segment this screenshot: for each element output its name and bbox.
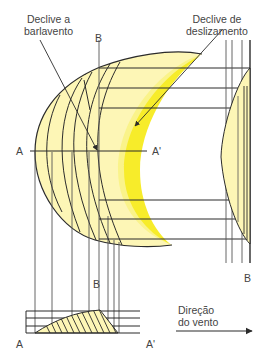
- label-a-right-bottom: A': [146, 338, 155, 350]
- label-a-left-mid: A: [16, 145, 23, 157]
- cross-section-b: [221, 68, 250, 244]
- label-wind-line1: Direção: [178, 304, 218, 316]
- label-a-left-bottom: A: [16, 338, 23, 350]
- label-wind-direction: Direção do vento: [178, 304, 218, 328]
- label-slip-face-line1: Declive de: [186, 13, 248, 25]
- label-slip-face-line2: deslizamento: [186, 25, 248, 37]
- label-b-right-bottom: B: [244, 272, 251, 284]
- label-windward-line1: Declive a: [24, 13, 73, 25]
- label-wind-line2: do vento: [178, 316, 218, 328]
- label-windward-line2: barlavento: [24, 25, 73, 37]
- cross-section-a: [26, 303, 140, 333]
- label-windward-slope: Declive a barlavento: [24, 13, 73, 37]
- label-a-right-mid: A': [152, 145, 161, 157]
- dune-plan-view: [35, 52, 202, 247]
- label-b-top: B: [95, 32, 102, 44]
- label-b-mid: B: [93, 278, 100, 290]
- label-slip-face: Declive de deslizamento: [186, 13, 248, 37]
- barchan-dune-diagram: [0, 0, 264, 351]
